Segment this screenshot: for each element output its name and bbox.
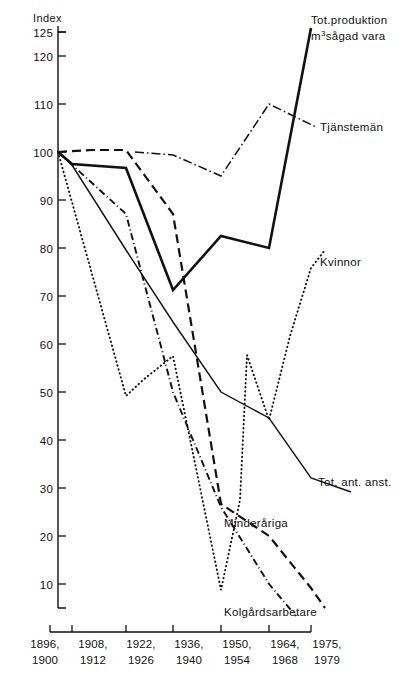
x-tick-label-4-top: 1950, bbox=[222, 638, 251, 650]
x-tick-label-2-bottom: 1926 bbox=[128, 654, 154, 666]
series-label-kolgardsarbetare: Kolgårdsarbetare bbox=[224, 606, 317, 618]
y-tick-label-80: 80 bbox=[40, 243, 53, 255]
x-tick-label-5-top: 1964, bbox=[270, 638, 299, 650]
y-tick-label-50: 50 bbox=[40, 387, 53, 399]
x-axis: 1896, 1900 1908, 1912 1922, 1926 1936, 1… bbox=[30, 625, 341, 666]
y-tick-label-20: 20 bbox=[40, 531, 53, 543]
series-labels: Tot.produktion m3sågad vara Tjänstemän K… bbox=[224, 14, 392, 618]
y-tick-label-90: 90 bbox=[40, 195, 53, 207]
y-tick-label-125: 125 bbox=[33, 27, 53, 39]
x-tick-label-3-bottom: 1940 bbox=[176, 654, 202, 666]
x-tick-label-6-top: 1975, bbox=[312, 638, 341, 650]
series-line-tot-ant-anst bbox=[58, 152, 351, 492]
x-tick-label-5-bottom: 1968 bbox=[272, 654, 298, 666]
y-tick-label-40: 40 bbox=[40, 435, 53, 447]
series-label-tot-produktion-line2: m3sågad vara bbox=[311, 29, 386, 42]
x-tick-label-0-top: 1896, bbox=[30, 638, 59, 650]
y-tick-label-100: 100 bbox=[33, 147, 53, 159]
x-tick-label-0-bottom: 1900 bbox=[32, 654, 58, 666]
series-label-tot-ant-anst: Tot. ant. anst. bbox=[318, 476, 392, 488]
y-tick-label-110: 110 bbox=[34, 99, 53, 111]
series-line-kolgardsarbetare bbox=[58, 152, 296, 616]
x-tick-label-6-bottom: 1979 bbox=[314, 654, 340, 666]
y-axis-title: Index bbox=[33, 12, 62, 24]
x-tick-label-4-bottom: 1954 bbox=[224, 654, 250, 666]
series-label-minderariga: Minderåriga bbox=[224, 517, 288, 529]
x-tick-label-3-top: 1936, bbox=[174, 638, 203, 650]
y-tick-label-70: 70 bbox=[40, 291, 53, 303]
series-label-kvinnor: Kvinnor bbox=[320, 256, 361, 268]
series-group bbox=[58, 28, 351, 616]
x-tick-label-1-top: 1908, bbox=[78, 638, 107, 650]
y-tick-label-60: 60 bbox=[40, 339, 53, 351]
x-tick-label-2-top: 1922, bbox=[126, 638, 155, 650]
series-line-minderariga bbox=[58, 150, 325, 608]
x-tick-label-1-bottom: 1912 bbox=[80, 654, 106, 666]
y-tick-label-30: 30 bbox=[40, 483, 53, 495]
y-axis-line bbox=[58, 26, 66, 608]
y-tick-label-10: 10 bbox=[40, 579, 53, 591]
y-tick-label-120: 120 bbox=[33, 51, 53, 63]
y-axis: Index 125 120 110 100 90 80 70 60 50 40 … bbox=[33, 12, 66, 608]
series-line-tot-produktion bbox=[58, 28, 311, 290]
line-chart: Index 125 120 110 100 90 80 70 60 50 40 … bbox=[0, 0, 404, 676]
series-label-tjanstemän: Tjänstemän bbox=[320, 121, 383, 133]
chart-container: Index 125 120 110 100 90 80 70 60 50 40 … bbox=[0, 0, 404, 676]
series-label-tot-produktion-line1: Tot.produktion bbox=[311, 14, 387, 26]
